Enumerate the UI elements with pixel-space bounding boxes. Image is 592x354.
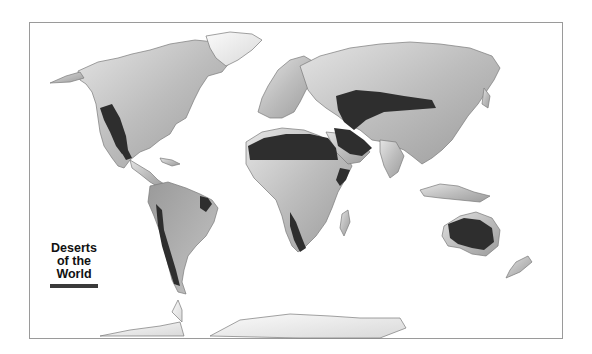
antarctica (100, 322, 184, 336)
madagascar (340, 210, 350, 236)
map-legend: Deserts of the World (44, 242, 104, 288)
legend-desert-swatch (50, 284, 98, 288)
legend-title-line-3: World (44, 268, 104, 281)
north-america (78, 40, 230, 168)
world-map (0, 0, 592, 354)
alaska (50, 72, 84, 83)
new-zealand (506, 256, 532, 278)
